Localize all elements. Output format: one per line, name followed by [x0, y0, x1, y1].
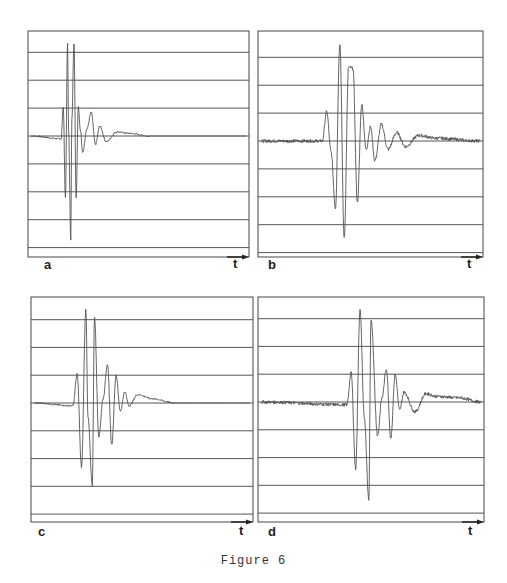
figure-canvas	[0, 0, 507, 583]
axis-label-t-d: t	[468, 523, 472, 538]
panel-label-d: d	[268, 524, 276, 539]
arrow-head-icon	[477, 520, 484, 525]
waveform-trace	[34, 309, 250, 486]
panel-label-b: b	[268, 257, 276, 272]
arrow-head-icon	[476, 255, 483, 260]
panel-frame	[31, 297, 253, 522]
waveform-trace	[261, 309, 481, 500]
figure-caption: Figure 6	[0, 554, 507, 568]
panel-frame	[28, 31, 249, 257]
panel-a	[28, 31, 249, 260]
axis-label-t-b: t	[467, 256, 471, 271]
panel-c	[31, 297, 253, 525]
panel-label-c: c	[38, 524, 45, 539]
waveform-trace	[31, 43, 246, 240]
panel-b	[258, 31, 483, 260]
panel-frame	[258, 31, 483, 257]
arrow-head-icon	[242, 255, 249, 260]
axis-label-t-a: t	[233, 256, 237, 271]
panel-label-a: a	[44, 257, 51, 272]
arrow-head-icon	[246, 520, 253, 525]
panel-d	[258, 297, 484, 525]
axis-label-t-c: t	[239, 523, 243, 538]
